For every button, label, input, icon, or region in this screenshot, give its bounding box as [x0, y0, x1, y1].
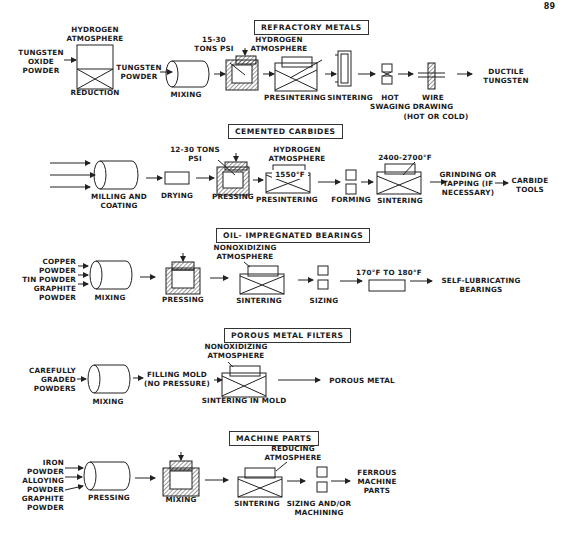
label-pressing: PRESSING — [208, 192, 258, 201]
label-pressing-bearings: PRESSING — [158, 295, 208, 304]
mill-drum-icon — [94, 161, 138, 189]
section-title-refractory-metals: REFRACTORY METALS — [254, 20, 369, 35]
sizing-dies-icon — [318, 266, 328, 289]
parts-press-icon — [163, 452, 199, 496]
label-temperature-1550: 1550°F — [272, 170, 308, 179]
label-mixing-parts: MIXING — [158, 495, 204, 504]
parts-sizing-dies-icon — [317, 467, 327, 492]
label-mixing-filters: MIXING — [88, 397, 128, 406]
label-tin-powder: TIN POWDER — [14, 275, 76, 284]
label-tungsten-powder: TUNGSTEN POWDER — [114, 63, 164, 81]
label-carbide-tools: CARBIDE TOOLS — [508, 176, 552, 194]
mold-sintering-furnace-icon — [222, 362, 266, 397]
label-hot-swaging: HOT SWAGING — [370, 93, 410, 111]
label-sizing: SIZING — [304, 296, 344, 305]
label-presintering-carbide: PRESINTERING — [252, 195, 322, 204]
label-wire-drawing: WIRE DRAWING — [411, 93, 455, 111]
label-graphite-powder: GRAPHITE POWDER — [20, 284, 76, 302]
label-sintering-carbide: SINTERING — [375, 196, 425, 205]
label-sintering: SINTERING — [325, 93, 375, 102]
label-self-lubricating-bearings: SELF-LUBRICATING BEARINGS — [436, 276, 526, 294]
label-pressing-parts: PRESSING — [84, 493, 134, 502]
label-carefully-graded-powders: CAREFULLY GRADED POWDERS — [18, 366, 76, 393]
label-forming: FORMING — [326, 195, 376, 204]
label-alloying-powder: ALLOYING POWDER — [14, 476, 64, 494]
bearing-mixer-icon — [90, 261, 132, 289]
carbide-press-icon — [217, 153, 249, 195]
label-reducing-atmosphere: REDUCING ATMOSPHERE — [260, 444, 326, 462]
page-number: 89 — [544, 2, 555, 11]
label-mixing-bearings: MIXING — [90, 293, 130, 302]
sintering-bottle-icon — [335, 51, 351, 86]
label-sintering-bearings: SINTERING — [234, 296, 284, 305]
label-iron-powder: IRON POWDER — [14, 458, 64, 476]
label-pressure: 15-30 TONS PSI — [190, 35, 238, 53]
label-ferrous-machine-parts: FERROUS MACHINE PARTS — [352, 468, 402, 495]
label-grinding-or-tapping: GRINDING OR TAPPING (IF NECESSARY) — [436, 170, 500, 197]
section-title-oil-impregnated-bearings: OIL- IMPREGNATED BEARINGS — [216, 228, 370, 243]
filter-mixer-icon — [88, 365, 130, 393]
label-mixing: MIXING — [166, 90, 206, 99]
drying-tray-icon — [165, 172, 189, 184]
label-graphite-powder-parts: GRAPHITE POWDER — [14, 494, 64, 512]
press-die-icon — [226, 48, 258, 90]
label-hydrogen-atmosphere: HYDROGEN ATMOSPHERE — [50, 25, 140, 43]
bearing-sintering-furnace-icon — [240, 262, 284, 294]
label-reduction: REDUCTION — [70, 88, 120, 97]
label-sintering-parts: SINTERING — [232, 499, 282, 508]
label-drying: DRYING — [157, 191, 197, 200]
label-tungsten-oxide-powder: TUNGSTEN OXIDE POWDER — [18, 48, 64, 75]
label-presintering: PRESINTERING — [260, 93, 330, 102]
presintering-furnace-icon — [275, 57, 322, 91]
label-sintering-in-mold: SINTERING IN MOLD — [196, 396, 292, 405]
section-title-cemented-carbides: CEMENTED CARBIDES — [228, 124, 343, 139]
label-sizing-and-machining: SIZING AND/OR MACHINING — [284, 499, 354, 517]
label-temperature-2400-2700: 2400-2700°F — [377, 153, 433, 162]
label-porous-metal: POROUS METAL — [326, 376, 398, 385]
parts-mixer-icon — [84, 462, 130, 490]
reducing-sintering-furnace-icon — [238, 462, 287, 497]
mixer-drum-icon — [160, 61, 209, 87]
label-filling-mold: FILLING MOLD (NO PRESSURE) — [140, 370, 214, 388]
oil-bath-icon — [369, 280, 405, 291]
section-title-porous-metal-filters: POROUS METAL FILTERS — [224, 328, 351, 343]
reduction-furnace-icon — [77, 45, 113, 89]
label-hydrogen-atmosphere-carbide: HYDROGEN ATMOSPHERE — [262, 145, 332, 163]
forming-dies-icon — [346, 170, 356, 194]
label-copper-powder: COPPER POWDER — [20, 257, 76, 275]
wire-drawing-die-icon — [418, 63, 445, 89]
label-nonoxidizing-atmosphere: NONOXIDIZING ATMOSPHERE — [205, 243, 285, 261]
swaging-dies-icon — [382, 64, 392, 84]
label-hydrogen-atmosphere-2: HYDROGEN ATMOSPHERE — [244, 35, 314, 53]
label-hot-or-cold: (HOT OR COLD) — [398, 112, 474, 121]
bearing-press-icon — [166, 253, 200, 294]
carbide-sintering-furnace-icon — [377, 162, 421, 194]
label-nonoxidizing-atmosphere-filters: NONOXIDIZING ATMOSPHERE — [196, 342, 276, 360]
label-milling-and-coating: MILLING AND COATING — [84, 192, 154, 210]
label-pressure-carbide: 12-30 TONS PSI — [170, 145, 220, 163]
label-temperature-170-180: 170°F TO 180°F — [352, 268, 426, 277]
label-ductile-tungsten: DUCTILE TUNGSTEN — [476, 67, 536, 85]
